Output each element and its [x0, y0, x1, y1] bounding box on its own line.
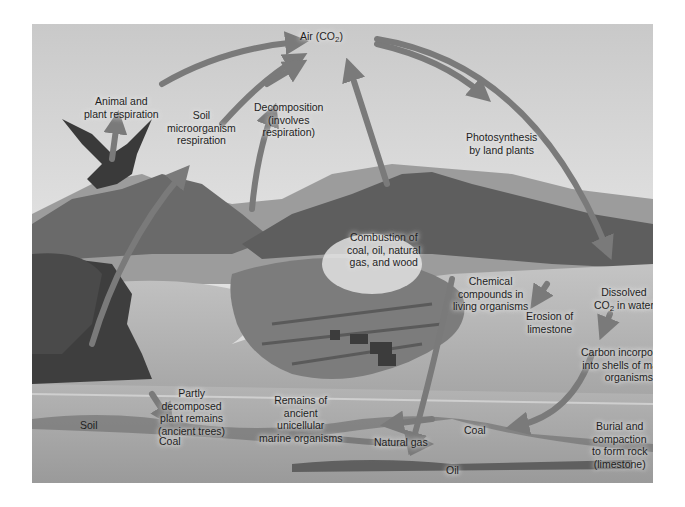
- label-natural-gas: Natural gas: [374, 436, 428, 449]
- label-oil: Oil: [446, 464, 459, 477]
- label-combustion: Combustion of coal, oil, natural gas, an…: [347, 231, 421, 269]
- label-chemical-compounds: Chemical compounds in living organisms: [453, 275, 528, 313]
- label-soil: Soil: [80, 419, 98, 432]
- label-partly-decomposed-plant-remains: Partly decomposed plant remains (ancient…: [158, 387, 225, 437]
- carbon-cycle-illustration: Air (CO2) Animal and plant respiration S…: [32, 24, 653, 483]
- label-coal-left: Coal: [159, 435, 181, 448]
- label-soil-microorganism-respiration: Soil microorganism respiration: [167, 109, 236, 147]
- label-carbon-incorporated-shells: Carbon incorporated into shells of marin…: [581, 346, 653, 384]
- label-coal-right: Coal: [464, 424, 486, 437]
- label-photosynthesis: Photosynthesis by land plants: [466, 131, 537, 156]
- label-air-co2: Air (CO2): [300, 30, 343, 47]
- label-dissolved-co2: Dissolved CO2 in water: [594, 286, 653, 315]
- label-erosion-of-limestone: Erosion of limestone: [526, 310, 573, 335]
- landscape-graphic: [32, 24, 653, 483]
- label-decomposition: Decomposition (involves respiration): [254, 101, 323, 139]
- label-remains-ancient-marine-organisms: Remains of ancient unicellular marine or…: [259, 394, 342, 444]
- label-burial-compaction-limestone: Burial and compaction to form rock (lime…: [592, 420, 647, 470]
- label-animal-plant-respiration: Animal and plant respiration: [84, 95, 159, 120]
